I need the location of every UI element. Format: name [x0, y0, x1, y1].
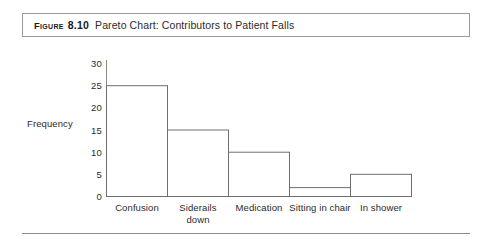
- bar-in-shower: [351, 174, 412, 196]
- x-label-line: Medication: [228, 202, 290, 214]
- x-label-medication: Medication: [228, 202, 290, 214]
- x-label-line: Siderails: [167, 202, 229, 214]
- x-label-line: Confusion: [106, 202, 168, 214]
- bar-confusion: [107, 86, 168, 197]
- x-label-sitting-in-chair: Sitting in chair: [287, 202, 353, 214]
- pareto-chart: Frequency 30 25 20 15 10 5 0 Confusion S…: [0, 0, 489, 245]
- bar-medication: [229, 152, 290, 196]
- x-label-confusion: Confusion: [106, 202, 168, 214]
- x-label-line: In shower: [350, 202, 412, 214]
- x-label-siderails-down: Siderails down: [167, 202, 229, 225]
- bar-sitting-in-chair: [290, 188, 351, 197]
- x-label-line: down: [167, 214, 229, 226]
- bar-siderails-down: [168, 130, 229, 197]
- x-label-in-shower: In shower: [350, 202, 412, 214]
- x-label-line: Sitting in chair: [287, 202, 353, 214]
- bottom-divider: [22, 233, 470, 234]
